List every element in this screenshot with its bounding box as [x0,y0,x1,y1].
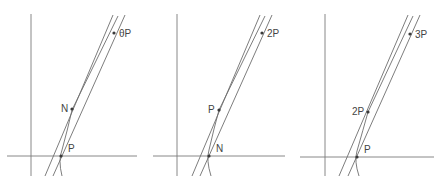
secant-line [339,15,408,176]
point-marker [207,154,210,157]
point-marker [70,107,73,110]
panel-3: 3P2PP [300,14,434,176]
point-label: 3P [415,29,428,40]
secant-line [348,15,420,176]
point-marker [260,31,263,34]
elliptic-curve-diagram: θPNP2PPN3P2PP [0,0,439,184]
point-marker [408,32,411,35]
point-label: N [61,103,68,114]
secant-line [53,15,125,176]
secant-line [200,15,272,176]
point-label: θP [119,28,132,39]
point-label: N [216,143,223,154]
point-marker [112,31,115,34]
point-marker [355,155,358,158]
point-label: 2P [267,28,280,39]
point-label: P [208,104,215,115]
point-label: 2P [352,106,365,117]
point-marker [366,110,369,113]
panel-2: 2PPN [153,14,285,176]
point-label: P [364,144,371,155]
point-label: P [68,143,75,154]
point-marker [217,108,220,111]
panel-1: θPNP [7,14,137,176]
point-marker [59,154,62,157]
